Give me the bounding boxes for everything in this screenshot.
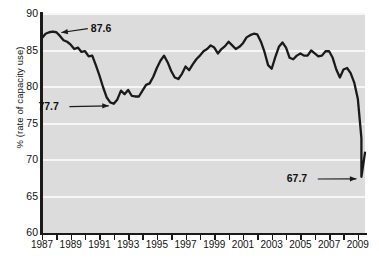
y-tick-label: 80 <box>12 80 38 92</box>
annotation-label-67-7: 67.7 <box>287 172 307 184</box>
x-axis-line <box>42 233 367 235</box>
annotation-label-87-6: 87.6 <box>91 22 111 34</box>
y-tick-label: 70 <box>12 153 38 165</box>
plot-area <box>42 14 365 233</box>
x-tick-label: 2009 <box>341 239 375 250</box>
y-tick-label: 85 <box>12 44 38 56</box>
annotation-arrows <box>42 14 365 233</box>
annotation-arrow-head <box>61 29 68 34</box>
y-tick-label: 90 <box>12 7 38 19</box>
y-tick-label: 60 <box>12 226 38 238</box>
annotation-arrow-head <box>350 176 357 181</box>
annotation-label-77-7: 77.7 <box>38 100 58 112</box>
y-tick-label: 75 <box>12 117 38 129</box>
y-tick-label: 65 <box>12 190 38 202</box>
annotation-arrow-head <box>102 103 109 108</box>
capacity-utilization-chart: % (rate of capacity use) 60657075808590 … <box>0 0 379 267</box>
y-axis-line <box>40 12 43 235</box>
